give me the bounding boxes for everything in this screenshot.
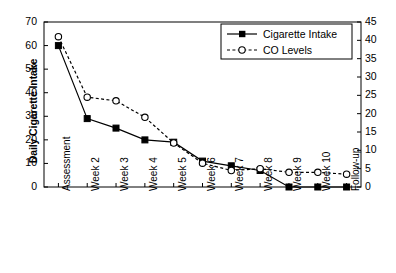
y-tick-right: 20 [365,108,377,118]
data-point-marker [55,43,61,49]
data-point-marker [142,114,148,120]
y-tick-right: 25 [365,89,377,99]
y-tick-right: 45 [365,16,377,26]
x-tick-label: Follow-up [351,148,361,191]
y-tick-right: 15 [365,126,377,136]
y-tick-right: 35 [365,53,377,63]
data-point-marker [84,94,90,100]
y-tick-left: 30 [0,110,37,120]
legend-label-0: Cigarette Intake [263,28,337,40]
data-point-marker [171,140,177,146]
y-tick-right: 30 [365,71,377,81]
x-tick-label: Week 10 [322,152,332,191]
y-tick-right: 10 [365,144,377,154]
data-point-marker [315,184,321,190]
data-point-marker [113,98,119,104]
x-tick-label: Assessment [62,137,72,191]
data-point-marker [84,116,90,122]
y-tick-right: 5 [365,163,371,173]
x-tick-label: Week 7 [235,157,245,191]
x-tick-label: Week 2 [91,157,101,191]
data-point-marker [113,125,119,131]
legend-label-1: CO Levels [263,44,312,56]
x-tick-label: Week 6 [207,157,217,191]
y-tick-left: 20 [0,134,37,144]
x-tick-label: Week 3 [120,157,130,191]
x-tick-label: Week 5 [178,157,188,191]
plot-svg: Cigarette IntakeCO Levels [0,0,396,273]
y-tick-left: 50 [0,63,37,73]
data-point-marker [142,137,148,143]
x-tick-label: Week 8 [264,157,274,191]
y-tick-left: 0 [0,181,37,191]
y-tick-left: 40 [0,87,37,97]
data-point-marker [55,34,61,40]
y-tick-left: 60 [0,40,37,50]
y-tick-left: 70 [0,16,37,26]
x-tick-label: Week 9 [293,157,303,191]
y-tick-right: 0 [365,181,371,191]
data-point-marker [343,171,349,177]
y-tick-left: 10 [0,157,37,167]
chart-container: Daily Cigarette Intake Weekly CO Levels … [0,0,396,273]
legend-marker-1 [239,47,245,53]
y-tick-right: 40 [365,34,377,44]
legend-marker-0 [239,31,245,37]
x-tick-label: Week 4 [149,157,159,191]
data-point-marker [344,184,350,190]
data-point-marker [199,160,205,166]
